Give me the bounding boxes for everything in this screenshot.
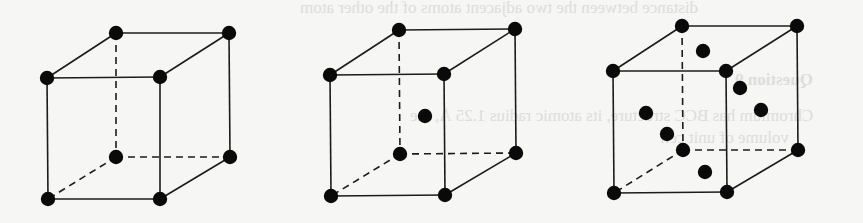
corner-atom xyxy=(606,64,620,78)
hidden-edge xyxy=(331,154,400,196)
center-atom xyxy=(733,81,747,95)
corner-atom xyxy=(676,143,690,157)
edge xyxy=(47,77,160,78)
corner-atom xyxy=(392,23,406,37)
corner-atom xyxy=(324,189,338,203)
edge xyxy=(47,33,116,78)
hidden-edge xyxy=(48,157,116,199)
unit-cell-diagram xyxy=(0,0,863,223)
corner-atom xyxy=(719,64,733,78)
simple-cubic-cell xyxy=(40,26,237,206)
edge xyxy=(726,71,727,192)
corner-atom xyxy=(153,70,167,84)
edge xyxy=(614,192,727,193)
edge xyxy=(330,74,444,75)
hidden-edge xyxy=(400,153,516,154)
edge xyxy=(613,26,682,71)
edge xyxy=(331,195,445,196)
edge xyxy=(797,26,798,150)
edge xyxy=(160,33,229,77)
edge xyxy=(445,153,516,195)
corner-atom xyxy=(508,22,522,36)
center-atom xyxy=(660,127,674,141)
edge xyxy=(47,78,48,199)
corner-atom xyxy=(153,192,167,206)
body-centered-cubic-cell xyxy=(323,22,523,203)
center-atom xyxy=(698,165,712,179)
corner-atom xyxy=(675,19,689,33)
corner-atom xyxy=(109,150,123,164)
center-atom xyxy=(639,106,653,120)
corner-atom xyxy=(791,143,805,157)
edge xyxy=(515,29,516,153)
edge xyxy=(160,157,230,199)
face-centered-cubic-cell xyxy=(606,19,805,200)
center-atom xyxy=(418,109,432,123)
center-atom xyxy=(754,103,768,117)
corner-atom xyxy=(509,146,523,160)
corner-atom xyxy=(438,188,452,202)
edge xyxy=(330,30,399,75)
edge xyxy=(229,33,230,157)
corner-atom xyxy=(41,192,55,206)
corner-atom xyxy=(323,68,337,82)
edge xyxy=(726,26,797,71)
edge xyxy=(444,74,445,195)
corner-atom xyxy=(222,26,236,40)
scanned-page: distance between the two adjacent atoms … xyxy=(0,0,863,223)
corner-atom xyxy=(437,67,451,81)
edge xyxy=(330,75,331,196)
corner-atom xyxy=(393,147,407,161)
edge xyxy=(727,150,798,192)
corner-atom xyxy=(223,150,237,164)
corner-atom xyxy=(40,71,54,85)
hidden-edge xyxy=(682,26,683,150)
corner-atom xyxy=(607,186,621,200)
center-atom xyxy=(696,44,710,58)
edge xyxy=(399,29,515,30)
hidden-edge xyxy=(614,150,683,193)
corner-atom xyxy=(790,19,804,33)
corner-atom xyxy=(720,185,734,199)
edge xyxy=(444,29,515,74)
corner-atom xyxy=(109,26,123,40)
hidden-edge xyxy=(399,30,400,154)
edge xyxy=(613,71,614,193)
